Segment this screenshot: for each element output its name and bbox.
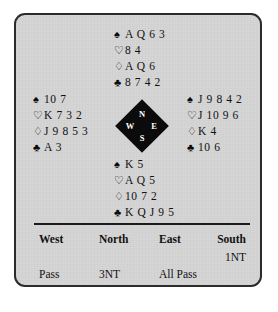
bidding-header-south: South: [217, 233, 246, 245]
hand-north-diamonds: ♢A Q 6: [114, 58, 165, 74]
diamond-icon: ♢: [114, 188, 125, 204]
bidding-table: West North East South 1NT Pass 3NT All P…: [16, 233, 260, 285]
hand-south-spades: ♠K 5: [114, 156, 175, 172]
club-icon: ♣: [114, 74, 125, 90]
heart-icon: ♡: [114, 172, 125, 188]
heart-icon: ♡: [33, 107, 44, 123]
hand-east-hearts: ♡J 10 9 6: [187, 107, 242, 123]
hand-east: ♠J 9 8 4 2 ♡J 10 9 6 ♢K 4 ♣10 6: [187, 91, 242, 155]
hand-north-diamonds-cards: A Q 6: [125, 58, 155, 74]
compass-north-label: N: [136, 109, 148, 119]
hand-west-diamonds: ♢J 9 8 5 3: [33, 123, 88, 139]
bidding-header-west: West: [39, 233, 63, 245]
bidding-divider: [34, 223, 250, 225]
spade-icon: ♠: [187, 91, 198, 107]
heart-icon: ♡: [114, 42, 125, 58]
compass-east-label: E: [148, 121, 160, 131]
hand-west-hearts-cards: K 7 3 2: [44, 107, 82, 123]
diamond-icon: ♢: [187, 123, 198, 139]
spade-icon: ♠: [33, 91, 44, 107]
diamond-icon: ♢: [33, 123, 44, 139]
club-icon: ♣: [33, 139, 44, 155]
bidding-header-north: North: [99, 233, 128, 245]
club-icon: ♣: [187, 139, 198, 155]
compass-labels: N W E S: [123, 107, 161, 145]
hand-east-diamonds: ♢K 4: [187, 123, 242, 139]
hand-north-spades: ♠A Q 6 3: [114, 26, 165, 42]
bidding-header-row: West North East South: [16, 233, 260, 251]
hand-north-hearts-cards: 8 4: [125, 42, 141, 58]
bridge-deal-card: ♠A Q 6 3 ♡8 4 ♢A Q 6 ♣8 7 4 2 ♠10 7 ♡K 7…: [14, 13, 262, 287]
hand-north: ♠A Q 6 3 ♡8 4 ♢A Q 6 ♣8 7 4 2: [114, 26, 165, 90]
hand-north-spades-cards: A Q 6 3: [125, 26, 165, 42]
hand-south-clubs: ♣K Q J 9 5: [114, 204, 175, 220]
hand-east-spades: ♠J 9 8 4 2: [187, 91, 242, 107]
diamond-icon: ♢: [114, 58, 125, 74]
compass-west-label: W: [124, 121, 136, 131]
spade-icon: ♠: [114, 26, 125, 42]
hand-west-spades: ♠10 7: [33, 91, 88, 107]
hand-east-clubs: ♣10 6: [187, 139, 242, 155]
hand-south-spades-cards: K 5: [125, 156, 144, 172]
bidding-row: 1NT: [16, 251, 260, 268]
hand-east-spades-cards: J 9 8 4 2: [198, 91, 242, 107]
hand-west-clubs: ♣A 3: [33, 139, 88, 155]
bid-east-2: All Pass: [159, 268, 197, 280]
hand-west-hearts: ♡K 7 3 2: [33, 107, 88, 123]
bid-north-2: 3NT: [99, 268, 120, 280]
bid-west-2: Pass: [39, 268, 59, 280]
hand-west: ♠10 7 ♡K 7 3 2 ♢J 9 8 5 3 ♣A 3: [33, 91, 88, 155]
compass-south-label: S: [136, 133, 148, 143]
hand-south-hearts: ♡A Q 5: [114, 172, 175, 188]
spade-icon: ♠: [114, 156, 125, 172]
hand-east-diamonds-cards: K 4: [198, 123, 217, 139]
hand-east-hearts-cards: J 10 9 6: [198, 107, 239, 123]
hand-south: ♠K 5 ♡A Q 5 ♢10 7 2 ♣K Q J 9 5: [114, 156, 175, 220]
hand-south-diamonds: ♢10 7 2: [114, 188, 175, 204]
hand-north-clubs: ♣8 7 4 2: [114, 74, 165, 90]
bidding-row: Pass 3NT All Pass: [16, 268, 260, 285]
hand-south-diamonds-cards: 10 7 2: [125, 188, 157, 204]
bid-south-1: 1NT: [225, 251, 246, 263]
hand-north-hearts: ♡8 4: [114, 42, 165, 58]
bidding-header-east: East: [159, 233, 181, 245]
club-icon: ♣: [114, 204, 125, 220]
hand-west-spades-cards: 10 7: [44, 91, 67, 107]
hand-west-clubs-cards: A 3: [44, 139, 62, 155]
hand-north-clubs-cards: 8 7 4 2: [125, 74, 161, 90]
hand-south-clubs-cards: K Q J 9 5: [125, 204, 175, 220]
heart-icon: ♡: [187, 107, 198, 123]
hand-east-clubs-cards: 10 6: [198, 139, 221, 155]
hand-south-hearts-cards: A Q 5: [125, 172, 155, 188]
hand-west-diamonds-cards: J 9 8 5 3: [44, 123, 88, 139]
